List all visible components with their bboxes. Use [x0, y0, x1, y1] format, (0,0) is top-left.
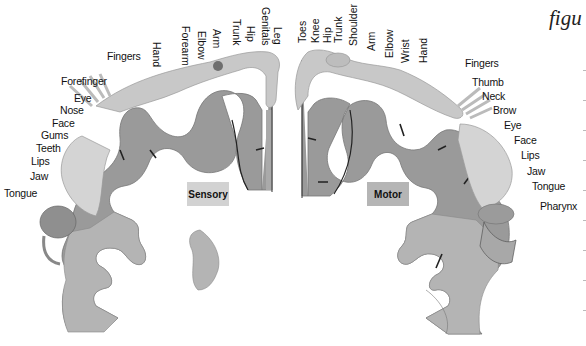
motor-label-neck: Neck	[482, 91, 505, 102]
sensory-label-forefinger: Forefinger	[61, 76, 107, 87]
sensory-label-hip: Hip	[246, 26, 257, 42]
sensory-label-eye: Eye	[74, 93, 92, 104]
sensory-label-elbow: Elbow	[197, 31, 208, 60]
motor-panel-tag: Motor	[367, 182, 409, 206]
sensory-label-genitals: Genitals	[261, 7, 272, 46]
motor-label-thumb: Thumb	[472, 77, 504, 88]
motor-label-shoulder: Shoulder	[348, 4, 359, 46]
sensory-label-tongue: Tongue	[4, 188, 37, 199]
motor-label-hand: Hand	[418, 38, 429, 63]
motor-label-pharynx: Pharynx	[540, 201, 577, 212]
figure-caption: figu	[549, 6, 582, 31]
sensory-label-lips: Lips	[31, 156, 49, 167]
motor-label-wrist: Wrist	[400, 39, 411, 63]
sensory-label-arm: Arm	[212, 29, 223, 48]
motor-label-hip: Hip	[322, 27, 333, 43]
motor-label-lips: Lips	[521, 150, 539, 161]
cortex-illustration	[0, 0, 586, 346]
sensory-label-face: Face	[52, 118, 75, 129]
motor-label-toes: Toes	[297, 21, 308, 43]
sensory-label-leg: Leg	[273, 27, 284, 45]
sensory-label-gums: Gums	[41, 130, 68, 141]
motor-label-face: Face	[514, 135, 537, 146]
sensory-label-trunk: Trunk	[232, 19, 243, 45]
motor-label-elbow: Elbow	[384, 29, 395, 58]
sensory-label-forearm: Forearm	[181, 26, 192, 66]
motor-label-arm: Arm	[366, 32, 377, 51]
motor-label-fingers: Fingers	[465, 58, 499, 69]
sensory-label-hand: Hand	[152, 42, 163, 67]
motor-label-trunk: Trunk	[333, 17, 344, 43]
motor-label-jaw: Jaw	[527, 166, 545, 177]
motor-label-tongue: Tongue	[532, 181, 565, 192]
sensory-label-teeth: Teeth	[36, 143, 61, 154]
motor-label-brow: Brow	[493, 105, 516, 116]
sensory-label-nose: Nose	[60, 105, 84, 116]
sensory-panel-tag: Sensory	[187, 182, 229, 206]
homunculus-diagram: Hand Forearm Elbow Arm Trunk Hip Genital…	[0, 0, 586, 346]
motor-label-eye: Eye	[504, 120, 522, 131]
sensory-label-fingers: Fingers	[107, 51, 141, 62]
motor-label-knee: Knee	[310, 18, 321, 43]
sensory-label-jaw: Jaw	[30, 171, 48, 182]
